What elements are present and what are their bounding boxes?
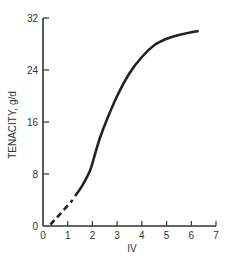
x-tick-label: 5 xyxy=(164,230,170,241)
y-axis-label: TENACITY, g/d xyxy=(7,91,18,159)
x-tick-label: 3 xyxy=(114,230,120,241)
x-tick-label: 4 xyxy=(139,230,145,241)
y-tick-label: 0 xyxy=(32,221,38,232)
chart: 0816243201234567 IV TENACITY, g/d xyxy=(0,0,233,265)
x-tick-label: 2 xyxy=(90,230,96,241)
series xyxy=(50,31,198,225)
x-tick-label: 6 xyxy=(189,230,195,241)
ticks: 0816243201234567 xyxy=(27,13,219,242)
x-tick-label: 0 xyxy=(40,230,46,241)
series-line-extrapolated xyxy=(50,200,72,225)
y-tick-label: 8 xyxy=(32,169,38,180)
y-tick-label: 24 xyxy=(27,65,39,76)
x-axis-label: IV xyxy=(127,243,137,254)
x-tick-label: 7 xyxy=(213,230,219,241)
series-line-measured xyxy=(75,31,199,196)
x-tick-label: 1 xyxy=(65,230,71,241)
y-tick-label: 32 xyxy=(27,13,39,24)
y-tick-label: 16 xyxy=(27,117,39,128)
axes xyxy=(43,18,216,226)
